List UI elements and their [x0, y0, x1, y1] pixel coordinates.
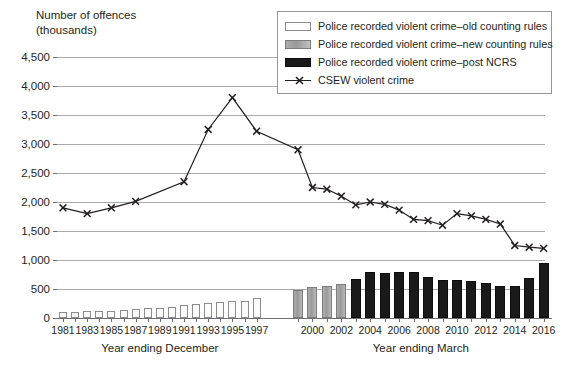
x-axis-tick-label-1997: 1997	[245, 324, 268, 336]
x-axis-tick	[245, 318, 246, 322]
legend-item-post[interactable]: Police recorded violent crime–post NCRS	[285, 53, 545, 71]
x-axis-tick	[471, 318, 472, 322]
x-axis-tick-label-1989: 1989	[148, 324, 171, 336]
x-axis-tick	[500, 318, 501, 322]
legend-item-line[interactable]: CSEW violent crime	[285, 71, 545, 89]
x-axis-tick	[99, 318, 100, 322]
x-axis-tick	[312, 318, 313, 322]
x-axis-line	[290, 318, 552, 319]
x-axis-tick	[327, 318, 328, 322]
y-axis-tick-label: 2,000	[21, 196, 50, 208]
x-axis-tick-label-1981: 1981	[51, 324, 74, 336]
y-axis-title: Number of offences(thousands)	[36, 8, 136, 38]
y-axis-tick-label: 4,000	[21, 80, 50, 92]
csew-marker-1991	[181, 178, 188, 185]
y-axis-tick-label: 1,500	[21, 225, 50, 237]
y-axis-tick-label: 3,500	[21, 109, 50, 121]
chart-legend: Police recorded violent crime–old counti…	[277, 11, 552, 94]
y-axis-tick-mark	[53, 289, 57, 290]
y-axis-tick-label: 3,000	[21, 138, 50, 150]
y-axis-tick-mark	[53, 86, 57, 87]
x-axis-tick	[443, 318, 444, 322]
csew-marker-2002	[338, 193, 345, 200]
x-axis-tick-label-2000: 2000	[301, 324, 324, 336]
x-axis-tick	[75, 318, 76, 322]
x-axis-tick	[87, 318, 88, 322]
chart-figure: Number of offences(thousands) 05001,0001…	[0, 0, 564, 371]
y-axis-tick-mark	[53, 115, 57, 116]
y-axis-tick-label: 0	[44, 312, 50, 324]
x-axis-tick	[63, 318, 64, 322]
x-axis-tick	[457, 318, 458, 322]
x-axis-tick-label-2002: 2002	[330, 324, 353, 336]
x-axis-tick-label-2010: 2010	[445, 324, 468, 336]
x-axis-tick	[111, 318, 112, 322]
x-axis-tick-label-1993: 1993	[197, 324, 220, 336]
x-axis-tick	[136, 318, 137, 322]
legend-swatch-old	[285, 22, 311, 31]
x-axis: 1981198319851987198919911993199519972000…	[57, 318, 545, 319]
x-axis-tick-label-1995: 1995	[221, 324, 244, 336]
x-axis-tick	[220, 318, 221, 322]
x-axis-caption-right: Year ending March	[373, 342, 469, 354]
x-axis-tick	[298, 318, 299, 322]
legend-label: Police recorded violent crime–old counti…	[318, 20, 547, 32]
x-axis-tick-label-2012: 2012	[474, 324, 497, 336]
plot-area	[57, 57, 545, 318]
x-axis-tick	[257, 318, 258, 322]
csew-marker-1997	[253, 128, 260, 135]
x-axis-tick	[529, 318, 530, 322]
legend-label: CSEW violent crime	[318, 74, 414, 86]
legend-swatch-new	[285, 40, 311, 49]
x-axis-tick	[341, 318, 342, 322]
legend-line-marker-icon	[285, 75, 311, 86]
x-axis-tick-label-2004: 2004	[359, 324, 382, 336]
csew-marker-1999	[295, 146, 302, 153]
y-axis-tick-mark	[53, 260, 57, 261]
y-axis-tick-label: 2,500	[21, 167, 50, 179]
csew-marker-1995	[229, 94, 236, 101]
legend-x-marker-icon	[294, 75, 305, 86]
x-axis-tick	[356, 318, 357, 322]
x-axis-caption-left: Year ending December	[101, 342, 218, 354]
legend-swatch-post	[285, 58, 311, 67]
x-axis-tick	[208, 318, 209, 322]
x-axis-tick	[148, 318, 149, 322]
x-axis-tick	[184, 318, 185, 322]
csew-line-series	[57, 57, 545, 318]
x-axis-tick-label-2008: 2008	[416, 324, 439, 336]
y-axis-tick-label: 1,000	[21, 254, 50, 266]
legend-label: Police recorded violent crime–post NCRS	[318, 56, 517, 68]
x-axis-tick	[414, 318, 415, 322]
x-axis-tick	[486, 318, 487, 322]
x-axis-tick	[196, 318, 197, 322]
x-axis-tick	[428, 318, 429, 322]
x-axis-tick-label-2016: 2016	[532, 324, 555, 336]
y-axis-title-line2: (thousands)	[36, 24, 97, 36]
csew-marker-2009	[439, 222, 446, 229]
x-axis-tick	[160, 318, 161, 322]
x-axis-tick	[370, 318, 371, 322]
x-axis-tick-label-2014: 2014	[503, 324, 526, 336]
y-axis-tick-label: 4,500	[21, 51, 50, 63]
csew-marker-2006	[396, 207, 403, 214]
y-axis-title-line1: Number of offences	[36, 9, 136, 21]
x-axis-tick	[385, 318, 386, 322]
y-axis-tick-mark	[53, 57, 57, 58]
x-axis-tick-label-1987: 1987	[124, 324, 147, 336]
x-axis-tick-label-1985: 1985	[100, 324, 123, 336]
x-axis-tick	[124, 318, 125, 322]
y-axis-tick-mark	[53, 144, 57, 145]
x-axis-tick-label-1983: 1983	[76, 324, 99, 336]
x-axis-tick	[172, 318, 173, 322]
legend-item-old[interactable]: Police recorded violent crime–old counti…	[285, 17, 545, 35]
y-axis-tick-mark	[53, 202, 57, 203]
csew-marker-2013	[497, 221, 504, 228]
legend-item-new[interactable]: Police recorded violent crime–new counti…	[285, 35, 545, 53]
x-axis-tick	[515, 318, 516, 322]
y-axis-tick-mark	[53, 231, 57, 232]
csew-line-path	[63, 98, 544, 249]
y-axis-tick-label: 500	[31, 283, 50, 295]
x-axis-tick-label-2006: 2006	[387, 324, 410, 336]
x-axis-tick	[399, 318, 400, 322]
